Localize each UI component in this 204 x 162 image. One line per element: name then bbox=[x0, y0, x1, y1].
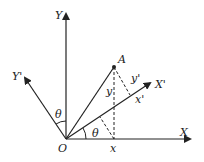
label-origin: O bbox=[58, 142, 67, 155]
label-theta-bottom: θ bbox=[92, 127, 99, 140]
label-coord-y-prime: y' bbox=[130, 72, 140, 85]
projection-helper bbox=[100, 117, 114, 139]
label-coord-y: y bbox=[105, 85, 113, 98]
theta-arc-bottom bbox=[83, 128, 86, 139]
label-x: X bbox=[179, 126, 189, 139]
rotation-diagram: Y X X' Y' A O θ θ x y x' y' bbox=[0, 0, 204, 162]
label-theta-top: θ bbox=[55, 108, 62, 121]
label-y: Y bbox=[55, 9, 64, 22]
label-coord-x-prime: x' bbox=[135, 93, 144, 106]
label-a: A bbox=[117, 53, 126, 66]
label-y-prime: Y' bbox=[12, 70, 22, 83]
theta-arc-top bbox=[56, 121, 66, 124]
label-coord-x: x bbox=[110, 142, 117, 155]
projection-x-prime bbox=[114, 67, 130, 95]
label-x-prime: X' bbox=[154, 78, 166, 91]
